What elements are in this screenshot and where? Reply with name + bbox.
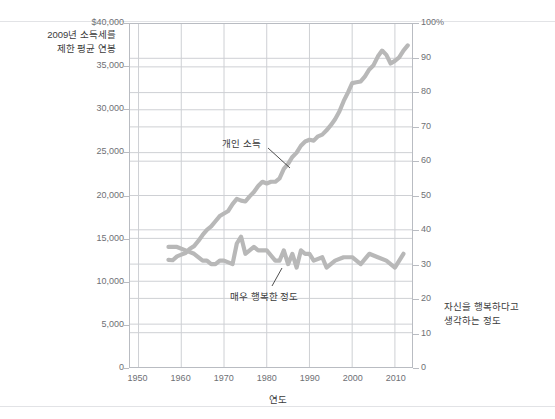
left-tick-mark <box>123 109 129 110</box>
left-tick-mark <box>123 282 129 283</box>
left-tick-mark <box>123 23 129 24</box>
right-tick-mark <box>413 127 419 128</box>
right-tick-mark <box>413 92 419 93</box>
right-tick-mark <box>413 334 419 335</box>
left-tick-mark <box>123 325 129 326</box>
annotation-leader-lines <box>0 0 555 419</box>
right-tick-mark <box>413 299 419 300</box>
right-tick-mark <box>413 196 419 197</box>
right-tick-mark <box>413 368 419 369</box>
annotation-income: 개인 소득 <box>222 136 261 150</box>
left-tick-mark <box>123 152 129 153</box>
right-tick-mark <box>413 265 419 266</box>
left-tick-mark <box>123 66 129 67</box>
left-tick-mark <box>123 196 129 197</box>
right-tick-mark <box>413 23 419 24</box>
right-tick-mark <box>413 58 419 59</box>
right-tick-mark <box>413 161 419 162</box>
right-tick-mark <box>413 230 419 231</box>
left-tick-mark <box>123 239 129 240</box>
chart-figure: 2009년 소득세를 제한 평균 연봉 자신을 행복하다고 생각하는 정도 연도… <box>0 0 555 419</box>
annotation-happiness: 매우 행복한 정도 <box>230 289 298 303</box>
left-tick-mark <box>123 368 129 369</box>
